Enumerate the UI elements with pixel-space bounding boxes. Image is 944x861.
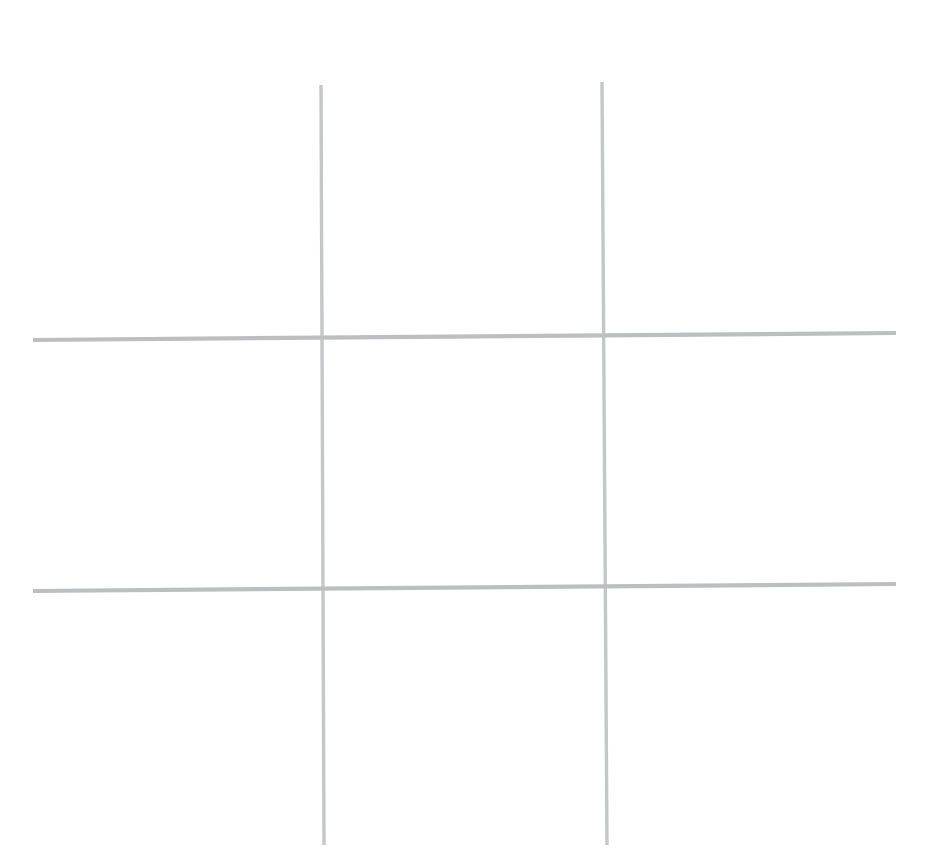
cell-middle-right-mark (606, 337, 944, 588)
cell-top-center[interactable] (322, 0, 606, 338)
cell-top-left[interactable] (0, 0, 322, 339)
cell-center[interactable] (322, 338, 606, 589)
cell-top-right-mark (606, 0, 944, 337)
cell-middle-left-mark (0, 339, 322, 590)
cell-bottom-center-mark (322, 589, 606, 861)
cell-top-left-mark (0, 0, 322, 339)
cell-bottom-left[interactable] (0, 590, 322, 861)
cell-bottom-right[interactable] (606, 588, 944, 861)
cell-bottom-center[interactable] (322, 589, 606, 861)
tic-tac-toe-board (0, 0, 944, 861)
cell-center-mark (322, 338, 606, 589)
cell-bottom-right-mark (606, 588, 944, 861)
cell-bottom-left-mark (0, 590, 322, 861)
cell-middle-right[interactable] (606, 337, 944, 588)
cell-top-right[interactable] (606, 0, 944, 337)
cell-middle-left[interactable] (0, 339, 322, 590)
cell-top-center-mark (322, 0, 606, 338)
